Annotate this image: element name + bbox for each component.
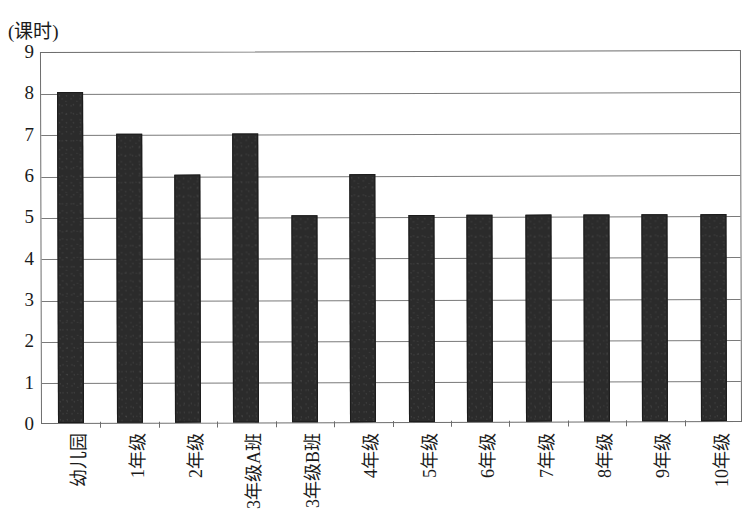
x-axis-tick (334, 421, 335, 427)
x-axis-tick-label-slot: 2年级 (158, 430, 216, 526)
x-axis-tick-label-slot: 3年级B班 (275, 430, 333, 526)
y-axis-tick-label: 1 (6, 373, 34, 392)
x-axis-tick-label: 幼儿园 (70, 432, 88, 486)
y-axis-tick-label: 4 (6, 249, 34, 268)
x-axis-tick-label-slot: 8年级 (567, 430, 625, 526)
bar[interactable] (525, 215, 552, 422)
x-axis-tick-label-slot: 10年级 (684, 430, 742, 526)
x-axis-tick (509, 421, 510, 427)
y-axis-tick-label: 0 (6, 414, 34, 433)
x-axis-tick-label: 3年级B班 (304, 432, 322, 507)
x-axis-tick-label-slot: 3年级A班 (216, 430, 274, 526)
x-axis-tick (451, 421, 452, 427)
bar-slot (333, 52, 392, 422)
x-axis-tick-label-text: 幼儿园 (70, 433, 88, 487)
x-axis-tick-label: 7年级 (538, 432, 556, 477)
bar[interactable] (350, 174, 377, 422)
plot-area (40, 50, 742, 424)
x-axis-tick-label-text: 6年级 (479, 433, 497, 478)
x-axis-tick-label-text: 4年级 (362, 433, 380, 478)
bar[interactable] (57, 92, 84, 423)
x-axis-tick-label-text: 10年级 (713, 433, 731, 487)
bar[interactable] (408, 215, 435, 422)
bar-slot (567, 51, 626, 421)
bar[interactable] (583, 215, 610, 422)
x-axis-tick-label-text: 9年级 (654, 433, 672, 478)
x-axis-tick-label: 1年级 (129, 432, 147, 477)
x-axis-tick-label-text: 2年级 (187, 433, 205, 478)
x-axis-tick-label: 2年级 (187, 432, 205, 477)
bar-slot (99, 53, 158, 423)
x-axis-tick-label: 8年级 (596, 432, 614, 477)
bar-slot (625, 51, 684, 421)
x-axis-tick (276, 421, 277, 427)
x-axis-tick-label-slot: 7年级 (508, 430, 566, 526)
x-axis-tick (568, 421, 569, 427)
bar-slot (684, 51, 743, 421)
bar-slot (158, 53, 217, 423)
x-axis-tick-labels: 幼儿园1年级2年级3年级A班3年级B班4年级5年级6年级7年级8年级9年级10年… (41, 430, 742, 526)
x-axis-tick-label-text: 8年级 (596, 433, 614, 478)
bar[interactable] (233, 133, 260, 422)
x-axis-tick-label-slot: 幼儿园 (41, 430, 99, 526)
x-axis-tick (100, 422, 101, 428)
x-axis-tick-label-slot: 9年级 (625, 430, 683, 526)
x-axis-tick-label: 9年级 (654, 432, 672, 477)
x-axis-tick-label-text: 3年级B班 (304, 433, 322, 508)
x-axis-tick (685, 420, 686, 426)
x-axis-tick (392, 421, 393, 427)
x-axis-tick-label-text: 3年级A班 (245, 433, 263, 509)
x-axis-tick-label: 10年级 (713, 432, 731, 486)
x-axis-tick-label-text: 5年级 (421, 433, 439, 478)
x-axis-tick-label: 4年级 (362, 432, 380, 477)
bar-slot (450, 52, 509, 422)
x-axis-tick-label-slot: 1年级 (99, 430, 157, 526)
bar-slot (275, 52, 334, 422)
y-axis-tick-label: 5 (6, 207, 34, 226)
x-axis-tick-label-slot: 6年级 (450, 430, 508, 526)
y-axis-tick-label: 2 (6, 331, 34, 350)
x-axis-tick (626, 420, 627, 426)
bar[interactable] (174, 175, 201, 423)
bar[interactable] (642, 215, 669, 422)
bar[interactable] (700, 214, 727, 421)
x-axis-tick-label-text: 7年级 (538, 433, 556, 478)
bar-slot (216, 52, 275, 422)
bar-slot (508, 52, 567, 422)
bar-chart-figure: (课时) 0123456789 幼儿园1年级2年级3年级A班3年级B班4年级5年… (0, 0, 754, 526)
bar[interactable] (467, 215, 494, 422)
y-axis-tick-label: 9 (6, 42, 34, 61)
x-axis-tick-label-slot: 5年级 (392, 430, 450, 526)
bar-series (41, 51, 741, 423)
x-axis-tick-label-text: 1年级 (129, 433, 147, 478)
x-axis-tick (159, 422, 160, 428)
x-axis-tick (217, 422, 218, 428)
bar[interactable] (116, 133, 143, 422)
y-axis-tick-label: 8 (6, 83, 34, 102)
y-axis-tick-label: 7 (6, 125, 34, 144)
y-axis-tick-label: 3 (6, 290, 34, 309)
x-axis-tick-label: 6年级 (479, 432, 497, 477)
x-axis-tick-label-slot: 4年级 (333, 430, 391, 526)
x-axis-tick-label: 3年级A班 (245, 432, 263, 508)
y-axis-tick-label: 6 (6, 166, 34, 185)
bar[interactable] (291, 216, 318, 423)
bar-slot (391, 52, 450, 422)
x-axis-tick-label: 5年级 (421, 432, 439, 477)
bar-slot (41, 53, 100, 423)
